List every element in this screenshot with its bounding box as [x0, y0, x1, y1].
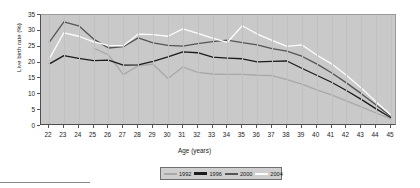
gridline-vertical — [138, 15, 139, 124]
x-axis-tick-mark — [316, 125, 317, 128]
plot-area — [40, 14, 396, 125]
x-axis-tick-mark — [152, 125, 153, 128]
x-axis-tick-mark — [241, 125, 242, 128]
x-axis-tick-mark — [122, 125, 123, 128]
x-axis-tick-label: 45 — [381, 131, 399, 138]
legend: 1992199620002004 — [160, 167, 282, 180]
x-axis-tick-mark — [345, 125, 346, 128]
y-axis-tick-label: 20 — [19, 58, 35, 65]
x-axis-tick-mark — [375, 125, 376, 128]
x-axis-tick-mark — [331, 125, 332, 128]
gridline-vertical — [168, 15, 169, 124]
y-axis-tick-mark — [37, 46, 40, 47]
y-axis-tick-mark — [37, 62, 40, 63]
gridline-vertical — [272, 15, 273, 124]
x-axis-tick-mark — [360, 125, 361, 128]
legend-swatch-icon — [255, 173, 268, 175]
gridline-vertical — [213, 15, 214, 124]
x-axis-tick-mark — [182, 125, 183, 128]
y-axis-tick-label: 30 — [19, 26, 35, 33]
y-axis-tick-mark — [37, 14, 40, 15]
y-axis-tick-label: 15 — [19, 74, 35, 81]
y-axis-tick-mark — [37, 109, 40, 110]
x-axis-tick-mark — [212, 125, 213, 128]
x-axis-tick-mark — [93, 125, 94, 128]
gridline-vertical — [123, 15, 124, 124]
gridline-vertical — [391, 15, 392, 124]
x-axis-tick-mark — [286, 125, 287, 128]
gridline-vertical — [302, 15, 303, 124]
y-axis-tick-label: 5 — [19, 106, 35, 113]
legend-swatch-icon — [164, 173, 177, 175]
gridline-vertical — [242, 15, 243, 124]
x-axis-tick-mark — [48, 125, 49, 128]
y-axis-tick-label: 10 — [19, 90, 35, 97]
gridline-vertical — [153, 15, 154, 124]
gridline-vertical — [376, 15, 377, 124]
live-birth-rate-line-chart: Live birth rate (%) Age (years) 19921996… — [0, 0, 420, 188]
x-axis-tick-mark — [137, 125, 138, 128]
footer-divider — [0, 182, 90, 183]
y-axis-tick-label: 35 — [19, 11, 35, 18]
gridline-vertical — [94, 15, 95, 124]
gridline-vertical — [287, 15, 288, 124]
x-axis-tick-mark — [107, 125, 108, 128]
gridline-vertical — [227, 15, 228, 124]
y-axis-tick-label: 0 — [19, 122, 35, 129]
gridline-vertical — [49, 15, 50, 124]
gridline-vertical — [257, 15, 258, 124]
y-axis-tick-mark — [37, 93, 40, 94]
gridline-vertical — [64, 15, 65, 124]
gridline-vertical — [361, 15, 362, 124]
legend-label: 1996 — [209, 171, 221, 177]
series-line-2000 — [49, 22, 391, 117]
series-line-1996 — [49, 52, 391, 118]
x-axis-title: Age (years) — [178, 147, 211, 154]
y-axis-tick-mark — [37, 30, 40, 31]
gridline-vertical — [108, 15, 109, 124]
legend-label: 2000 — [240, 171, 252, 177]
y-axis-tick-mark — [37, 77, 40, 78]
y-axis-tick-mark — [37, 125, 40, 126]
legend-swatch-icon — [194, 172, 207, 174]
legend-label: 2004 — [270, 171, 282, 177]
legend-label: 1992 — [179, 171, 191, 177]
x-axis-tick-mark — [226, 125, 227, 128]
x-axis-tick-mark — [256, 125, 257, 128]
x-axis-tick-mark — [271, 125, 272, 128]
legend-entry-2000[interactable]: 2000 — [222, 168, 252, 179]
gridline-vertical — [346, 15, 347, 124]
series-line-2004 — [49, 26, 391, 115]
x-axis-tick-mark — [63, 125, 64, 128]
x-axis-tick-mark — [301, 125, 302, 128]
x-axis-tick-mark — [197, 125, 198, 128]
gridline-vertical — [198, 15, 199, 124]
gridline-vertical — [79, 15, 80, 124]
gridline-vertical — [183, 15, 184, 124]
legend-entry-2004[interactable]: 2004 — [252, 168, 282, 179]
x-axis-tick-mark — [78, 125, 79, 128]
x-axis-tick-mark — [167, 125, 168, 128]
y-axis-tick-label: 25 — [19, 42, 35, 49]
gridline-vertical — [332, 15, 333, 124]
x-axis-tick-mark — [390, 125, 391, 128]
legend-entry-1992[interactable]: 1992 — [161, 168, 191, 179]
legend-swatch-icon — [225, 173, 238, 175]
gridline-vertical — [317, 15, 318, 124]
legend-entry-1996[interactable]: 1996 — [191, 168, 221, 179]
